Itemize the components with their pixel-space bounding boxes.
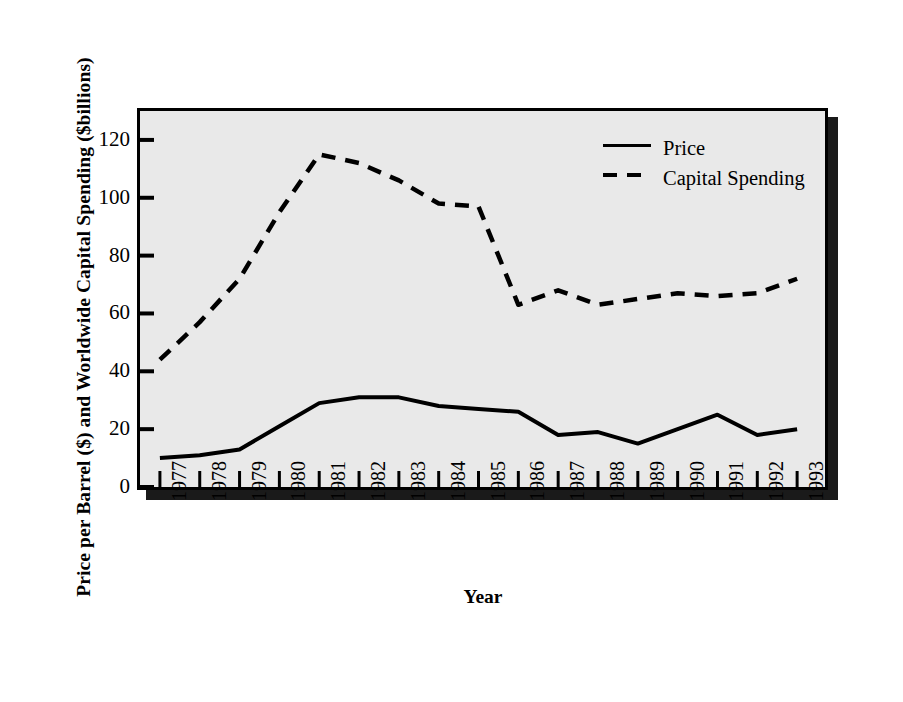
- x-tick-label: 1977: [169, 437, 189, 501]
- x-tick-label: 1991: [726, 437, 746, 501]
- x-tick-label: 1981: [328, 437, 348, 501]
- chart-figure: Price per Barrel ($) and Worldwide Capit…: [0, 0, 903, 702]
- x-axis-title: Year: [137, 586, 829, 608]
- x-tick-label: 1988: [607, 437, 627, 501]
- x-tick-label: 1987: [567, 437, 587, 501]
- x-tick-label: 1980: [288, 437, 308, 501]
- x-tick-label: 1990: [687, 437, 707, 501]
- x-tick-label: 1985: [488, 437, 508, 501]
- x-tick-label: 1984: [448, 437, 468, 501]
- x-tick-label: 1983: [408, 437, 428, 501]
- x-tick-label: 1979: [249, 437, 269, 501]
- x-tick-label: 1993: [806, 437, 826, 501]
- x-tick-label: 1992: [766, 437, 786, 501]
- x-tick-label: 1986: [527, 437, 547, 501]
- x-tick-label: 1978: [209, 437, 229, 501]
- x-tick-label: 1989: [647, 437, 667, 501]
- x-tick-label: 1982: [368, 437, 388, 501]
